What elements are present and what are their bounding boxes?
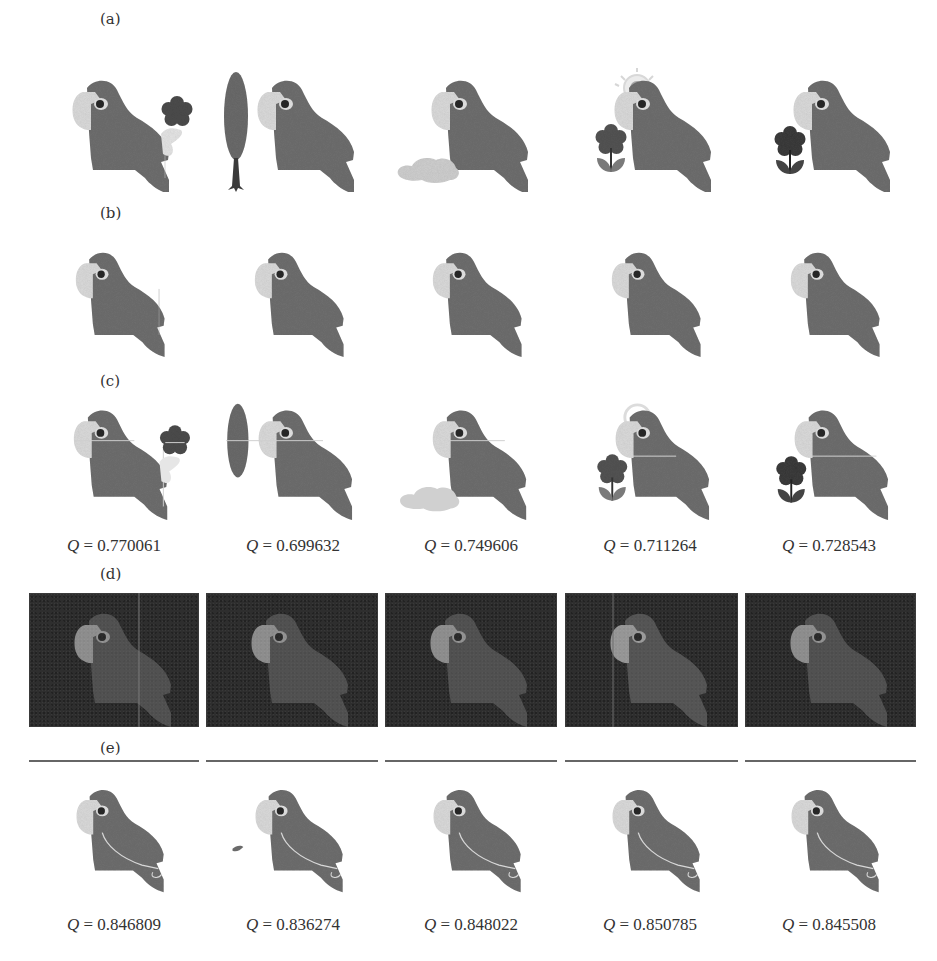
row-b-image-3 [382, 243, 560, 357]
q-score-e-5: Q = 0.845508 [740, 915, 918, 935]
q-score-c-2: Q = 0.699632 [204, 536, 382, 556]
row-b-image-1 [25, 243, 203, 357]
q-score-e-3: Q = 0.848022 [382, 915, 560, 935]
row-a-image-1 [25, 68, 203, 192]
row-a-image-4 [561, 68, 739, 192]
q-score-e-1: Q = 0.846809 [25, 915, 203, 935]
row-d-map-3 [385, 593, 557, 727]
q-score-e-2: Q = 0.836274 [204, 915, 382, 935]
row-e-image-2 [204, 782, 382, 894]
row-c-image-5 [740, 400, 918, 520]
row-e-image-1 [25, 782, 203, 894]
row-c-image-4 [561, 400, 739, 520]
divider-line-5 [745, 760, 916, 762]
row-c-image-2 [204, 400, 382, 520]
row-c-image-3 [382, 400, 560, 520]
row-d-map-1 [29, 593, 199, 727]
row-e-image-3 [382, 782, 560, 894]
q-score-c-4: Q = 0.711264 [561, 536, 739, 556]
row-d-map-4 [565, 593, 738, 727]
row-label-a: (a) [100, 10, 121, 28]
row-b-image-4 [561, 243, 739, 357]
q-score-c-5: Q = 0.728543 [740, 536, 918, 556]
row-label-e: (e) [100, 739, 121, 757]
row-e-image-5 [740, 782, 918, 894]
divider-line-4 [565, 760, 738, 762]
divider-line-3 [385, 760, 557, 762]
divider-line-1 [29, 760, 199, 762]
row-c-image-1 [25, 400, 203, 520]
row-b-image-2 [204, 243, 382, 357]
row-a-image-3 [382, 68, 560, 192]
row-label-b: (b) [100, 204, 121, 222]
row-label-c: (c) [100, 372, 120, 390]
q-score-c-1: Q = 0.770061 [25, 536, 203, 556]
row-a-image-2 [204, 68, 382, 192]
row-d-map-5 [745, 593, 916, 727]
divider-line-2 [206, 760, 378, 762]
q-score-c-3: Q = 0.749606 [382, 536, 560, 556]
row-label-d: (d) [100, 565, 121, 583]
row-b-image-5 [740, 243, 918, 357]
row-a-image-5 [740, 68, 918, 192]
row-e-image-4 [561, 782, 739, 894]
q-score-e-4: Q = 0.850785 [561, 915, 739, 935]
row-d-map-2 [206, 593, 378, 727]
